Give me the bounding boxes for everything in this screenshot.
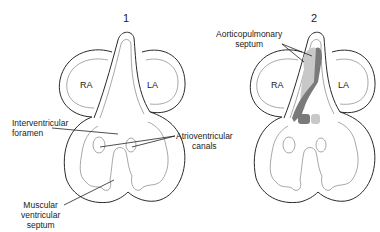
panel-2-number: 2 xyxy=(311,12,317,24)
panel-1-left-atrium-label: LA xyxy=(147,80,158,90)
heart-diagram-canvas xyxy=(0,0,380,232)
panel-2-heart xyxy=(250,32,375,202)
panel-2-right-atrium-label: RA xyxy=(271,80,284,90)
panel-2-left-atrium-label: LA xyxy=(338,80,349,90)
interventricular-foramen-label: Interventricular foramen xyxy=(12,118,68,138)
panel-1-number: 1 xyxy=(123,12,129,24)
aorticopulmonary-septum-label: Aorticopulmonary septum xyxy=(216,29,282,49)
panel-1-right-atrium-label: RA xyxy=(80,80,93,90)
muscular-ventricular-septum-label: Muscular ventricular septum xyxy=(21,200,60,230)
panel-1-heart xyxy=(52,32,185,205)
atrioventricular-canals-label: Atrioventricular canals xyxy=(176,131,233,151)
